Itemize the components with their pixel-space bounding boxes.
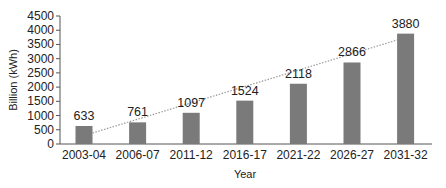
x-axis-title: Year	[234, 168, 257, 180]
bar-value-label: 2118	[285, 67, 312, 81]
y-tick-label: 2500	[27, 66, 54, 80]
bar-value-label: 1097	[177, 96, 205, 110]
y-tick-label: 0	[47, 137, 54, 151]
y-tick-label: 4500	[27, 9, 54, 23]
x-tick-label: 2026-27	[330, 148, 374, 162]
y-axis: 050010001500200025003000350040004500	[27, 9, 60, 151]
x-axis: 2003-042006-072011-122016-172021-222026-…	[60, 144, 432, 162]
y-tick-label: 4000	[27, 23, 54, 37]
bar-value-label: 1524	[231, 84, 259, 98]
bar	[183, 113, 200, 144]
y-tick-label: 2000	[27, 80, 54, 94]
x-tick-label: 2016-17	[223, 148, 267, 162]
bar	[290, 84, 307, 144]
x-tick-label: 2003-04	[62, 148, 106, 162]
bar	[344, 62, 361, 144]
x-tick-label: 2006-07	[116, 148, 160, 162]
x-tick-label: 2021-22	[276, 148, 320, 162]
x-tick-label: 2011-12	[170, 148, 213, 162]
y-tick-label: 500	[34, 123, 54, 137]
bar-value-label: 3880	[392, 17, 420, 31]
x-tick-label: 2031-32	[384, 148, 428, 162]
bar-value-label: 761	[127, 105, 148, 119]
bar	[76, 126, 93, 144]
bar-chart: 050010001500200025003000350040004500 200…	[0, 0, 446, 188]
y-axis-title: Billion (kWh)	[7, 49, 19, 111]
y-tick-label: 3000	[27, 52, 54, 66]
bar-value-label: 2866	[338, 45, 366, 59]
bar	[397, 34, 414, 144]
bar-value-label: 633	[74, 109, 95, 123]
y-tick-label: 1500	[27, 94, 54, 108]
y-tick-label: 3500	[27, 37, 54, 51]
bar	[129, 122, 146, 144]
bar	[236, 101, 253, 144]
y-tick-label: 1000	[27, 109, 54, 123]
